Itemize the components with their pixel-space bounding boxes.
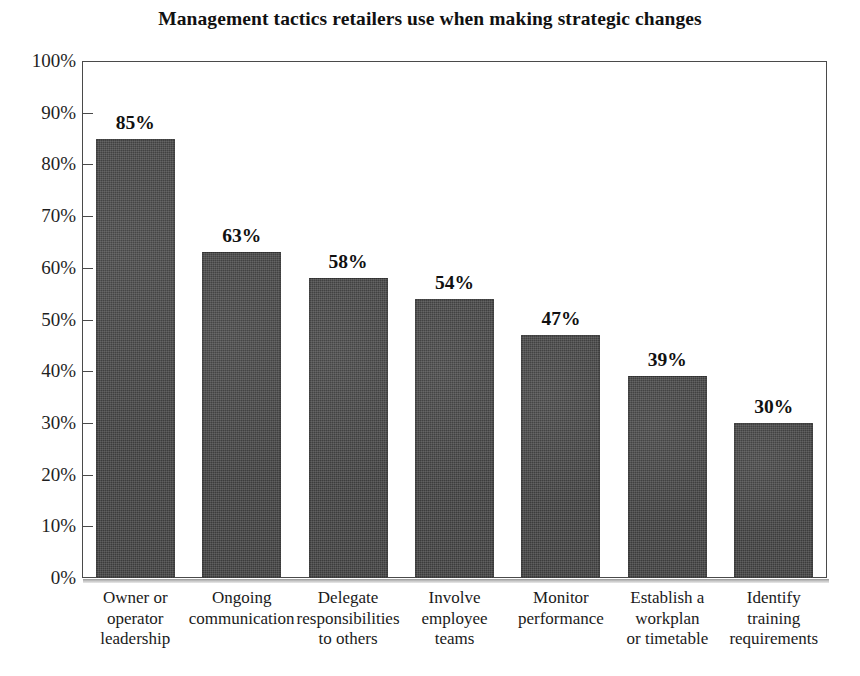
y-axis-tick-label: 10% <box>4 515 76 537</box>
x-axis-category-label-line: communication <box>188 609 294 630</box>
y-axis: 0%10%20%30%40%50%60%70%80%90%100% <box>0 0 76 676</box>
y-axis-tick-label: 40% <box>4 360 76 382</box>
x-axis-category-label-line: employee <box>401 609 507 630</box>
x-axis-category-label: Monitorperformance <box>508 588 614 629</box>
x-axis-category-label-line: responsibilities <box>295 609 401 630</box>
bar[interactable] <box>202 252 281 578</box>
y-axis-tick-mark <box>82 164 93 165</box>
bar-value-label: 39% <box>607 349 727 371</box>
x-axis-category-label-line: training <box>721 609 827 630</box>
bar-value-label: 85% <box>75 112 195 134</box>
bar-chart-figure: 0%10%20%30%40%50%60%70%80%90%100% 85%63%… <box>0 0 860 676</box>
y-axis-tick-label: 50% <box>4 309 76 331</box>
bar-value-label: 30% <box>714 396 834 418</box>
x-axis-category-label-line: operator <box>82 609 188 630</box>
x-axis-category-label: Identifytrainingrequirements <box>721 588 827 650</box>
y-axis-tick-mark <box>82 371 93 372</box>
y-axis-tick-label: 20% <box>4 464 76 486</box>
y-axis-tick-mark <box>82 423 93 424</box>
x-axis-category-label: Ongoingcommunication <box>188 588 294 629</box>
x-axis-category-label: Involveemployeeteams <box>401 588 507 650</box>
x-axis-category-label-line: or timetable <box>614 629 720 650</box>
x-axis-category-label-line: Establish a <box>614 588 720 609</box>
y-axis-tick-mark <box>82 268 93 269</box>
x-axis-category-label: Owner oroperatorleadership <box>82 588 188 650</box>
x-axis-category-label-line: Monitor <box>508 588 614 609</box>
x-axis-category-label: Establish aworkplanor timetable <box>614 588 720 650</box>
y-axis-tick-mark <box>82 475 93 476</box>
bar[interactable] <box>628 376 707 578</box>
y-axis-tick-label: 100% <box>4 50 76 72</box>
x-axis-category-label-line: requirements <box>721 629 827 650</box>
x-axis-category-label-line: Owner or <box>82 588 188 609</box>
x-axis-category-label-line: leadership <box>82 629 188 650</box>
bar-value-label: 63% <box>182 225 302 247</box>
x-axis-category-label: Delegateresponsibilitiesto others <box>295 588 401 650</box>
x-axis-category-label-line: to others <box>295 629 401 650</box>
y-axis-tick-mark <box>82 320 93 321</box>
bar-value-label: 47% <box>501 308 621 330</box>
y-axis-tick-mark <box>82 216 93 217</box>
x-axis-category-label-line: Ongoing <box>188 588 294 609</box>
y-axis-tick-mark <box>82 526 93 527</box>
bar-value-label: 58% <box>288 251 408 273</box>
y-axis-tick-label: 80% <box>4 153 76 175</box>
bar[interactable] <box>521 335 600 578</box>
bar[interactable] <box>309 278 388 578</box>
x-axis-category-label-line: Delegate <box>295 588 401 609</box>
y-axis-tick-label: 30% <box>4 412 76 434</box>
x-axis-category-label-line: teams <box>401 629 507 650</box>
bar[interactable] <box>734 423 813 578</box>
bar[interactable] <box>415 299 494 578</box>
y-axis-tick-label: 0% <box>4 567 76 589</box>
y-axis-tick-label: 90% <box>4 102 76 124</box>
x-axis-category-label-line: Identify <box>721 588 827 609</box>
x-axis-category-label-line: Involve <box>401 588 507 609</box>
y-axis-tick-label: 60% <box>4 257 76 279</box>
x-axis-baseline <box>83 579 829 583</box>
bar-value-label: 54% <box>395 272 515 294</box>
bar[interactable] <box>96 139 175 578</box>
x-axis-category-label-line: performance <box>508 609 614 630</box>
y-axis-tick-label: 70% <box>4 205 76 227</box>
x-axis-category-label-line: workplan <box>614 609 720 630</box>
